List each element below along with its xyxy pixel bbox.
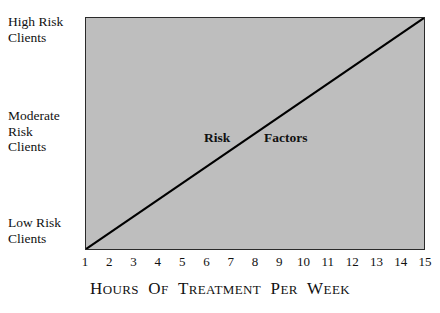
x-axis-tick-5: 5 bbox=[179, 253, 186, 270]
x-axis-tick-15: 15 bbox=[419, 253, 432, 270]
x-axis-tick-12: 12 bbox=[346, 253, 359, 270]
x-axis-tick-9: 9 bbox=[276, 253, 283, 270]
x-axis-tick-1: 1 bbox=[82, 253, 89, 270]
y-axis-label-moderate-risk: Moderate Risk Clients bbox=[8, 108, 82, 155]
x-axis-tick-8: 8 bbox=[252, 253, 259, 270]
x-axis-tick-4: 4 bbox=[155, 253, 162, 270]
x-axis-tick-labels: 123456789101112131415 bbox=[85, 253, 425, 273]
y-axis-label-low-risk: Low Risk Clients bbox=[8, 215, 82, 246]
chart-figure: High Risk Clients Moderate Risk Clients … bbox=[0, 0, 440, 313]
x-axis-title-word: TREATMENT bbox=[178, 279, 261, 298]
x-axis-title-word: OF bbox=[148, 279, 168, 298]
x-axis-tick-11: 11 bbox=[322, 253, 335, 270]
x-axis-title-word: HOURS bbox=[90, 279, 139, 298]
x-axis-tick-2: 2 bbox=[106, 253, 113, 270]
plot-area: Risk Factors bbox=[85, 17, 425, 250]
annotation-factors: Factors bbox=[264, 131, 307, 145]
x-axis-title-word: WEEK bbox=[307, 279, 350, 298]
risk-factors-trend-line bbox=[86, 18, 424, 249]
x-axis-title: HOURS OF TREATMENT PER WEEK bbox=[0, 279, 440, 299]
x-axis-tick-6: 6 bbox=[203, 253, 210, 270]
x-axis-tick-13: 13 bbox=[370, 253, 383, 270]
trend-line-svg bbox=[86, 18, 424, 249]
x-axis-tick-3: 3 bbox=[130, 253, 137, 270]
x-axis-tick-14: 14 bbox=[394, 253, 407, 270]
y-axis-label-high-risk: High Risk Clients bbox=[8, 14, 82, 45]
x-axis-tick-10: 10 bbox=[297, 253, 310, 270]
x-axis-tick-7: 7 bbox=[227, 253, 234, 270]
annotation-risk: Risk bbox=[204, 131, 230, 145]
x-axis-title-word: PER bbox=[271, 279, 298, 298]
